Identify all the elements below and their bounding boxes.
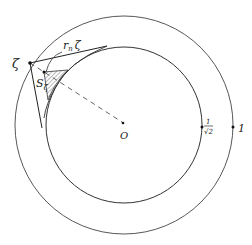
tangent-line-lower bbox=[30, 63, 42, 128]
label-inner-denominator: √2 bbox=[204, 128, 213, 136]
label-rn-zeta: rnζ bbox=[63, 39, 82, 53]
label-inner-numerator: 1 bbox=[206, 118, 210, 126]
point-outer-radius bbox=[232, 126, 235, 129]
label-leader-line bbox=[46, 52, 62, 72]
label-zeta: ζ bbox=[12, 56, 20, 71]
point-zeta bbox=[28, 61, 32, 65]
inner-circle bbox=[46, 47, 202, 203]
diagram-canvas: ζ Sζ rnζ O 1 √2 1 bbox=[0, 0, 252, 245]
outer-circle bbox=[15, 16, 233, 234]
label-center-o: O bbox=[120, 130, 128, 141]
label-outer-one: 1 bbox=[238, 122, 245, 135]
point-center bbox=[122, 122, 125, 125]
point-s-zeta bbox=[43, 71, 46, 74]
